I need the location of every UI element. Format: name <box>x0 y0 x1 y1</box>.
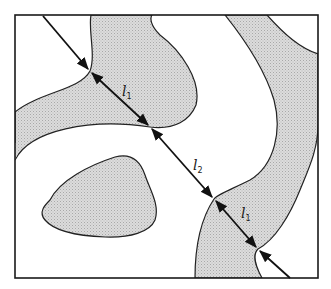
phase-region-island <box>42 156 156 237</box>
test-line-segment-exit <box>260 251 290 278</box>
phase-region-top-left <box>15 15 197 160</box>
label-l2-middle: l2 <box>193 157 203 175</box>
test-line-segment-l2 <box>152 129 212 197</box>
microstructure-diagram: l1 l2 l1 <box>0 0 331 289</box>
phase-region-right <box>195 15 318 278</box>
test-line-segment-entry <box>43 16 88 69</box>
